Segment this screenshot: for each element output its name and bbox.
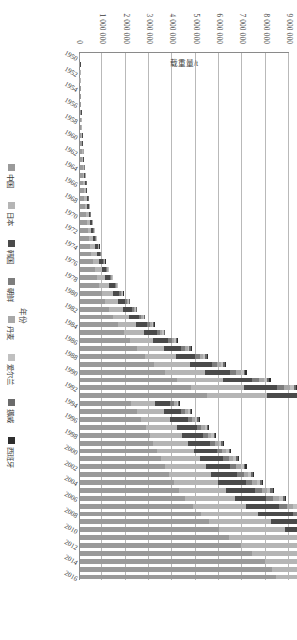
bar-segment[interactable] (80, 378, 177, 383)
bar-segment[interactable] (80, 519, 210, 524)
bar-segment[interactable] (296, 385, 297, 390)
bar-segment[interactable] (199, 417, 200, 422)
legend-item[interactable]: 中国 (6, 164, 17, 188)
bar-segment[interactable] (223, 378, 252, 383)
bar-segment[interactable] (214, 433, 216, 438)
bar-segment[interactable] (190, 346, 191, 351)
bar-segment[interactable] (244, 370, 246, 375)
bar-segment[interactable] (164, 330, 165, 335)
bar-column[interactable] (80, 496, 286, 501)
bar-segment[interactable] (106, 267, 107, 272)
bar-column[interactable] (80, 456, 239, 461)
bar-column[interactable] (80, 559, 297, 564)
bar-segment[interactable] (80, 259, 93, 264)
bar-segment[interactable] (81, 125, 82, 130)
bar-segment[interactable] (80, 275, 97, 280)
bar-column[interactable] (80, 488, 274, 493)
bar-segment[interactable] (274, 496, 280, 501)
bar-segment[interactable] (83, 181, 85, 186)
bar-segment[interactable] (141, 315, 143, 320)
bar-segment[interactable] (190, 362, 212, 367)
bar-segment[interactable] (99, 259, 103, 264)
bar-column[interactable] (80, 425, 209, 430)
bar-segment[interactable] (80, 330, 124, 335)
bar-segment[interactable] (251, 472, 253, 477)
bar-segment[interactable] (185, 346, 188, 351)
bar-column[interactable] (80, 133, 83, 138)
bar-segment[interactable] (207, 354, 208, 359)
bar-segment[interactable] (87, 220, 90, 225)
bar-segment[interactable] (262, 488, 267, 493)
bar-column[interactable] (80, 354, 208, 359)
bar-column[interactable] (80, 512, 297, 517)
bar-segment[interactable] (265, 559, 297, 564)
bar-segment[interactable] (229, 456, 233, 461)
bar-segment[interactable] (188, 417, 192, 422)
bar-segment[interactable] (154, 441, 189, 446)
bar-column[interactable] (80, 252, 102, 257)
bar-segment[interactable] (174, 480, 218, 485)
bar-segment[interactable] (111, 275, 112, 280)
bar-segment[interactable] (80, 417, 141, 422)
bar-segment[interactable] (157, 330, 160, 335)
bar-segment[interactable] (279, 504, 287, 509)
bar-segment[interactable] (85, 204, 87, 209)
bar-segment[interactable] (211, 472, 237, 477)
bar-column[interactable] (80, 125, 82, 130)
bar-segment[interactable] (252, 480, 257, 485)
bar-segment[interactable] (80, 173, 83, 178)
bar-segment[interactable] (279, 496, 283, 501)
bar-segment[interactable] (244, 464, 246, 469)
legend-item[interactable]: 朝鲜 (6, 278, 17, 302)
bar-segment[interactable] (197, 417, 198, 422)
bar-segment[interactable] (185, 409, 188, 414)
bar-segment[interactable] (80, 512, 201, 517)
bar-segment[interactable] (146, 425, 177, 430)
bar-segment[interactable] (80, 125, 81, 130)
bar-segment[interactable] (192, 417, 195, 422)
bar-segment[interactable] (257, 480, 260, 485)
bar-column[interactable] (80, 259, 106, 264)
bar-segment[interactable] (80, 441, 154, 446)
bar-segment[interactable] (237, 472, 243, 477)
bar-segment[interactable] (131, 401, 155, 406)
bar-segment[interactable] (80, 472, 169, 477)
bar-segment[interactable] (218, 480, 245, 485)
bar-segment[interactable] (241, 370, 244, 375)
bar-segment[interactable] (86, 212, 89, 217)
bar-column[interactable] (80, 244, 100, 249)
bar-column[interactable] (80, 86, 81, 91)
bar-segment[interactable] (206, 464, 231, 469)
bar-segment[interactable] (118, 299, 125, 304)
bar-segment[interactable] (84, 188, 86, 193)
bar-segment[interactable] (181, 409, 185, 414)
bar-segment[interactable] (201, 425, 204, 430)
bar-segment[interactable] (176, 354, 195, 359)
bar-segment[interactable] (217, 362, 221, 367)
bar-segment[interactable] (98, 244, 99, 249)
bar-segment[interactable] (188, 409, 190, 414)
bar-segment[interactable] (246, 504, 279, 509)
bar-segment[interactable] (80, 149, 82, 154)
bar-segment[interactable] (80, 504, 193, 509)
bar-segment[interactable] (178, 401, 179, 406)
bar-segment[interactable] (119, 291, 121, 296)
bar-segment[interactable] (201, 512, 258, 517)
bar-segment[interactable] (136, 322, 147, 327)
bar-segment[interactable] (205, 354, 206, 359)
bar-segment[interactable] (182, 433, 202, 438)
legend-item[interactable]: 挪威 (6, 399, 17, 423)
bar-segment[interactable] (113, 315, 129, 320)
bar-segment[interactable] (117, 283, 118, 288)
bar-column[interactable] (80, 330, 165, 335)
bar-segment[interactable] (223, 362, 225, 367)
bar-segment[interactable] (179, 488, 226, 493)
bar-segment[interactable] (168, 338, 171, 343)
bar-segment[interactable] (210, 519, 271, 524)
bar-segment[interactable] (80, 433, 150, 438)
bar-segment[interactable] (208, 425, 209, 430)
legend-item[interactable]: 爱尔兰 (6, 354, 17, 385)
bar-segment[interactable] (80, 212, 86, 217)
bar-segment[interactable] (80, 315, 113, 320)
bar-column[interactable] (80, 165, 85, 170)
